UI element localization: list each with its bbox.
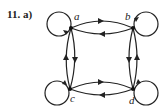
arrow-a-b — [98, 18, 104, 24]
arrow-d-b — [134, 54, 140, 60]
node-label-a: a — [74, 10, 80, 22]
arrow-c-a — [63, 54, 69, 60]
edge-a-b — [71, 21, 133, 28]
vertex-b — [131, 26, 135, 30]
arrow-c-d — [98, 79, 104, 85]
loop-a — [47, 12, 71, 36]
arrow-loop-d — [136, 79, 141, 84]
node-label-c: c — [70, 92, 75, 104]
directed-graph: a b c d — [0, 0, 164, 109]
vertex-a — [69, 26, 73, 30]
loop-d — [134, 81, 158, 105]
node-label-b: b — [125, 10, 131, 22]
arrow-b-a — [99, 31, 105, 37]
node-label-d: d — [129, 94, 135, 106]
vertex-c — [68, 87, 72, 91]
arrow-b-d — [126, 57, 132, 63]
arrow-a-c — [72, 57, 78, 63]
loop-b — [134, 12, 158, 36]
vertex-d — [131, 87, 135, 91]
arrow-d-c — [99, 92, 105, 98]
